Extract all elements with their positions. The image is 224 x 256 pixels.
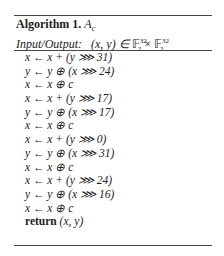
algorithm-step: x ← x ⊕ c [25, 78, 114, 92]
return-statement: return (x, y) [25, 215, 114, 229]
algorithm-step: y ← y ⊕ (x ⋙ 24) [25, 65, 114, 79]
algorithm-step: x ← x + (y ⋙ 17) [25, 92, 114, 106]
algorithm-label: Algorithm 1. [16, 17, 81, 31]
algorithm-step: y ← y ⊕ (x ⋙ 17) [25, 106, 114, 120]
input-output-math: (x, y) ∈ 𝔽322 × 𝔽322 [91, 37, 163, 51]
io-tuple: (x, y) ∈ [91, 37, 132, 51]
return-keyword: return [25, 215, 57, 227]
field-exponent: 32 [162, 37, 169, 45]
algorithm-step: x ← x ⊕ c [25, 202, 114, 216]
return-value: (x, y) [60, 215, 84, 227]
algorithm-step: x ← x + (y ⋙ 24) [25, 174, 114, 188]
algorithm-step: x ← x + (y ⋙ 31) [25, 51, 114, 65]
algorithm-step: x ← x + (y ⋙ 0) [25, 133, 114, 147]
input-output-label: Input/Output: [16, 37, 82, 51]
times-symbol: × [141, 37, 154, 51]
algorithm-body: x ← x + (y ⋙ 31) y ← y ⊕ (x ⋙ 24) x ← x … [25, 51, 114, 229]
algorithm-step: y ← y ⊕ (x ⋙ 31) [25, 147, 114, 161]
algorithm-name: A [84, 17, 91, 31]
algorithm-step: y ← y ⊕ (x ⋙ 16) [25, 188, 114, 202]
bottom-rule [14, 245, 212, 246]
algorithm-step: x ← x ⊕ c [25, 161, 114, 175]
algorithm-step: x ← x ⊕ c [25, 119, 114, 133]
